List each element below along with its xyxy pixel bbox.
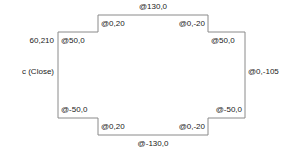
segment-label-top-left-step: @0,20 — [101, 19, 125, 28]
segment-label-right-vertical: @0,-105 — [248, 67, 279, 76]
segment-label-bottom-left-step: @0,20 — [101, 122, 125, 131]
segment-label-bottom-right-step: @0,-20 — [150, 122, 205, 131]
segment-label-bottom-right-horizontal: @-50,0 — [190, 105, 242, 114]
segment-label-bottom-left-horizontal: @-50,0 — [61, 105, 87, 114]
segment-label-top-left-horizontal: @50,0 — [61, 36, 85, 45]
segment-label-top-horizontal: @130,0 — [98, 2, 208, 11]
shape-outline-path — [58, 15, 245, 135]
segment-label-bottom-horizontal: @-130,0 — [98, 139, 208, 148]
start-point-label: 60,210 — [2, 36, 54, 45]
segment-label-top-right-horizontal: @50,0 — [211, 36, 235, 45]
close-label: c (Close) — [2, 67, 54, 76]
segment-label-top-right-step: @0,-20 — [150, 19, 205, 28]
diagram-canvas: 60,210 c (Close) @50,0 @0,20 @130,0 @0,-… — [0, 0, 303, 156]
